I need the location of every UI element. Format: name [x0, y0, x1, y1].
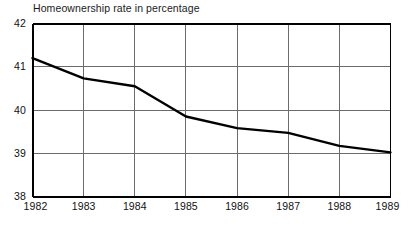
x-tick-label: 1984: [115, 200, 155, 212]
x-tick-label: 1989: [368, 200, 408, 212]
x-tick-label: 1987: [268, 200, 308, 212]
grid-lines: [33, 24, 391, 197]
line-chart-plot: [0, 0, 419, 232]
x-tick-label: 1982: [16, 200, 56, 212]
data-line-series: [33, 58, 391, 152]
y-tick-label: 42: [2, 17, 26, 29]
chart-figure: Homeownership rate in percentage 4241403…: [0, 0, 419, 232]
y-tick-label: 39: [2, 147, 26, 159]
x-tick-label: 1983: [64, 200, 104, 212]
data-line: [33, 58, 391, 152]
x-tick-label: 1985: [166, 200, 206, 212]
y-tick-label: 41: [2, 60, 26, 72]
y-tick-label: 40: [2, 104, 26, 116]
x-tick-label: 1988: [319, 200, 359, 212]
x-tick-label: 1986: [217, 200, 257, 212]
